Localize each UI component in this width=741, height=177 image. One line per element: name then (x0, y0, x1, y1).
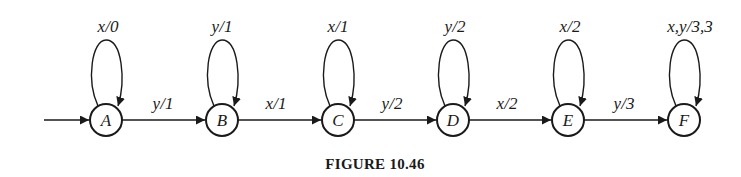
state-label: F (678, 111, 690, 130)
self-loop-a: x/0 (92, 17, 122, 106)
state-d: D (437, 104, 469, 136)
state-f: F (668, 104, 700, 136)
self-loop-f: x,y/3,3 (666, 17, 712, 106)
transition-label: y/3 (612, 94, 635, 113)
state-label: B (217, 111, 228, 130)
transition-label: y/1 (151, 94, 174, 113)
state-label: D (446, 111, 460, 130)
transition-b-c: x/1 (238, 94, 321, 120)
self-loop-d: y/2 (439, 17, 469, 106)
state-label: A (100, 111, 112, 130)
transition-label: x/2 (496, 94, 518, 113)
state-b: B (206, 104, 238, 136)
figure-caption: FIGURE 10.46 (325, 156, 425, 172)
self-loop-label: x/2 (559, 17, 581, 36)
self-loop-b: y/1 (208, 17, 238, 106)
transition-label: x/1 (265, 94, 287, 113)
transition-e-f: y/3 (584, 94, 667, 120)
self-loop-label: y/1 (210, 17, 233, 36)
self-loop-label: x/1 (327, 17, 349, 36)
transition-c-d: y/2 (354, 94, 436, 120)
state-diagram: y/1 x/1 y/2 x/2 y/3 x/0 y/1 x/1 y/2 x/2 … (0, 0, 741, 177)
state-label: C (332, 111, 344, 130)
self-loop-c: x/1 (324, 17, 354, 106)
self-loop-label: y/2 (443, 17, 466, 36)
self-loop-label: x/0 (97, 17, 119, 36)
transition-label: y/2 (380, 94, 403, 113)
transition-a-b: y/1 (122, 94, 205, 120)
self-loop-label: x,y/3,3 (666, 17, 712, 36)
state-label: E (562, 111, 574, 130)
transition-d-e: x/2 (469, 94, 551, 120)
state-a: A (90, 104, 122, 136)
self-loop-e: x/2 (554, 17, 584, 106)
state-c: C (322, 104, 354, 136)
state-e: E (552, 104, 584, 136)
